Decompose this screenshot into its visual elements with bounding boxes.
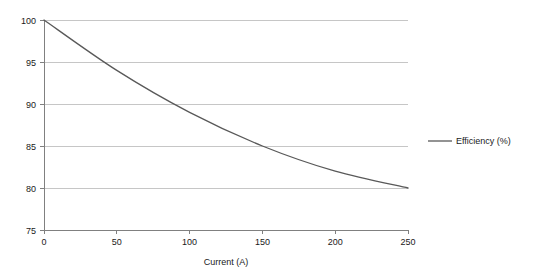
y-tick-label-75: 75 — [26, 226, 36, 236]
y-tick-label-80: 80 — [26, 184, 36, 194]
chart-svg: 100 95 90 85 80 75 0 50 100 150 200 250 … — [0, 0, 534, 279]
x-tick-label-200: 200 — [328, 237, 343, 247]
x-tick-label-100: 100 — [182, 237, 197, 247]
x-axis-title: Current (A) — [204, 257, 249, 267]
y-tick-label-85: 85 — [26, 142, 36, 152]
x-tick-label-150: 150 — [255, 237, 270, 247]
y-tick-label-90: 90 — [26, 100, 36, 110]
y-tick-label-100: 100 — [21, 16, 36, 26]
y-tick-label-95: 95 — [26, 58, 36, 68]
x-tick-label-0: 0 — [41, 237, 46, 247]
legend-label-efficiency: Efficiency (%) — [456, 136, 511, 146]
x-tick-label-50: 50 — [112, 237, 122, 247]
x-tick-label-250: 250 — [400, 237, 415, 247]
efficiency-vs-current-chart: 100 95 90 85 80 75 0 50 100 150 200 250 … — [0, 0, 534, 279]
